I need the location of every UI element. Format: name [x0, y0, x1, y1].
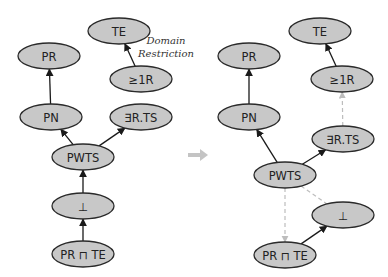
left-edge-pwts-to-pn — [61, 129, 73, 144]
node-label: ⊥ — [338, 209, 348, 223]
annotation-line-1: Domain — [145, 35, 185, 46]
left-node-te: TE — [88, 18, 150, 44]
node-label: PN — [43, 111, 59, 125]
right-node-bot: ⊥ — [312, 202, 374, 228]
left-node-bot: ⊥ — [52, 193, 114, 219]
right-edge-exrts-to-ge1r — [342, 92, 343, 126]
node-label: ∃R.TS — [125, 111, 158, 125]
right-node-prte: PR ⊓ TE — [254, 242, 316, 268]
left-node-exrts: ∃R.TS — [110, 104, 172, 130]
node-label: PWTS — [67, 151, 100, 165]
node-label: TE — [111, 25, 126, 39]
node-label: PR — [42, 50, 57, 64]
right-arrow-icon — [188, 149, 208, 161]
left-node-pr: PR — [18, 43, 80, 69]
node-label: ≥1R — [129, 73, 154, 87]
left-node-pn: PN — [20, 104, 82, 130]
right-edge-pwts-to-exrts — [302, 150, 325, 164]
node-label: PN — [241, 111, 257, 125]
left-edge-pwts-to-exrts — [99, 128, 125, 146]
node-label: PR — [242, 50, 257, 64]
right-node-te: TE — [289, 18, 351, 44]
annotation-line-2: Restriction — [137, 48, 194, 59]
right-edge-prte-to-bot — [301, 226, 327, 244]
right-edge-ge1r-to-te — [326, 44, 336, 66]
left-node-pwts: PWTS — [52, 144, 114, 170]
diagram-canvas: PRTE≥1RPN∃R.TSPWTS⊥PR ⊓ TE PRTE≥1RPN∃R.T… — [0, 0, 388, 277]
left-node-ge1r: ≥1R — [110, 66, 172, 92]
right-edge-pwts-to-pn — [257, 130, 277, 163]
node-label: PR ⊓ TE — [60, 248, 106, 262]
right-node-pr: PR — [218, 43, 280, 69]
node-label: ⊥ — [78, 200, 88, 214]
right-node-exrts: ∃R.TS — [312, 126, 374, 152]
right-node-ge1r: ≥1R — [311, 66, 373, 92]
right-graph: PRTE≥1RPN∃R.TSPWTS⊥PR ⊓ TE — [218, 18, 374, 268]
node-label: TE — [312, 25, 327, 39]
left-node-prte: PR ⊓ TE — [52, 241, 114, 267]
node-label: PWTS — [269, 169, 302, 183]
node-label: ≥1R — [330, 73, 355, 87]
node-label: ∃R.TS — [327, 133, 360, 147]
right-edge-pwts-to-bot — [301, 186, 327, 204]
left-edge-pn-to-pr — [49, 69, 50, 104]
left-edge-ge1r-to-te — [125, 44, 135, 66]
node-label: PR ⊓ TE — [262, 249, 308, 263]
right-node-pn: PN — [218, 104, 280, 130]
right-node-pwts: PWTS — [254, 162, 316, 188]
